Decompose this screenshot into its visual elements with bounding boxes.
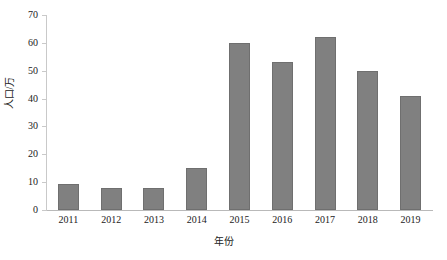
bar [229,43,250,210]
x-tick-label: 2017 [304,214,346,226]
x-tick-label: 2014 [176,214,218,226]
x-axis-title: 年份 [0,236,447,248]
y-tick-label: 60 [0,38,38,48]
y-tick-label: 0 [0,205,38,215]
bar [315,37,336,210]
x-axis-line [46,210,433,211]
y-tick-mark [42,210,47,211]
x-tick-label: 2016 [261,214,303,226]
x-tick-label: 2015 [219,214,261,226]
bar [58,184,79,210]
plot-area [47,15,432,210]
y-tick-label: 30 [0,121,38,131]
bar [143,188,164,210]
bar [186,168,207,210]
bar-chart: 人口/万 010203040506070 2011201220132014201… [0,0,447,260]
y-tick-label: 10 [0,177,38,187]
y-tick-label: 50 [0,66,38,76]
y-tick-label: 20 [0,149,38,159]
y-tick-label: 40 [0,94,38,104]
x-tick-label: 2019 [390,214,432,226]
x-tick-label: 2012 [90,214,132,226]
x-tick-label: 2011 [47,214,89,226]
x-tick-label: 2018 [347,214,389,226]
bar [400,96,421,210]
bar [357,71,378,210]
y-tick-label: 70 [0,10,38,20]
bar [272,62,293,210]
x-tick-label: 2013 [133,214,175,226]
bar [101,188,122,210]
